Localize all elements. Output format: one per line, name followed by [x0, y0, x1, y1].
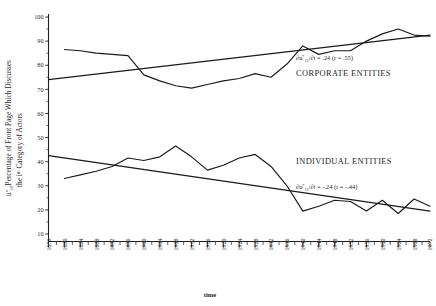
- y-axis-group: 102030405060708090100: [34, 13, 48, 242]
- x-tick-label-1912: 1912: [189, 239, 195, 251]
- corporate-annotation: ∂u*11/∂t = .24 (r = .55) CORPORATE ENTIT…: [296, 54, 391, 78]
- y-axis-title-group: u*it,Percentage of Front Page Which Disc…: [4, 60, 24, 196]
- y-tick-label-100: 100: [34, 13, 43, 20]
- x-tick-label-1960: 1960: [380, 239, 386, 251]
- x-tick-label-1928: 1928: [253, 239, 259, 251]
- y-tick-label-10: 10: [37, 230, 43, 237]
- individual-series-label: INDIVIDUAL ENTITIES: [296, 157, 392, 166]
- y-tick-label-20: 20: [37, 206, 43, 213]
- x-tick-label-1964: 1964: [396, 239, 402, 251]
- y-axis-title-rest: Category of Actors: [15, 113, 24, 171]
- y-tick-label-70: 70: [37, 86, 43, 93]
- x-tick-label-1908: 1908: [173, 239, 179, 251]
- x-tick-label-1916: 1916: [205, 239, 211, 251]
- y-tick-label-60: 60: [37, 110, 43, 117]
- time-series-chart: 102030405060708090100 187618801884188818…: [0, 0, 436, 306]
- x-tick-label-1936: 1936: [284, 239, 290, 251]
- y-tick-label-80: 80: [37, 61, 43, 68]
- y-axis-title-main: Percentage of Front Page Which Discusses: [4, 60, 13, 185]
- figure-container: 102030405060708090100 187618801884188818…: [0, 0, 436, 306]
- x-tick-label-1944: 1944: [316, 239, 322, 251]
- y-axis-title-line2: the ith Category of Actors: [15, 113, 24, 187]
- x-tick-label-1880: 1880: [62, 239, 68, 251]
- corporate-equation: ∂u*11/∂t = .24 (r = .55): [296, 54, 353, 63]
- x-tick-label-1948: 1948: [332, 239, 338, 251]
- y-axis-title-the-i: the i: [15, 174, 24, 187]
- corporate-data-line: [64, 29, 430, 88]
- y-tick-label-30: 30: [37, 182, 43, 189]
- x-axis-group: 1876188018841888189218961900190419081912…: [46, 239, 434, 251]
- x-tick-label-1932: 1932: [268, 239, 274, 251]
- x-tick-label-1940: 1940: [300, 239, 306, 251]
- y-tick-label-50: 50: [37, 134, 43, 141]
- x-tick-label-1920: 1920: [221, 239, 227, 251]
- y-axis-title-line1: u*it,Percentage of Front Page Which Disc…: [4, 60, 14, 196]
- series-corporate-group: [49, 29, 431, 88]
- corporate-series-label: CORPORATE ENTITIES: [296, 69, 391, 78]
- corporate-eq-body: /∂t = .24 (r = .55): [309, 54, 353, 62]
- y-tick-label-40: 40: [37, 158, 43, 165]
- x-tick-label-1888: 1888: [94, 239, 100, 251]
- x-tick-label-1968: 1968: [412, 239, 418, 251]
- individual-annotation: INDIVIDUAL ENTITIES ∂u*11/∂t = -.24 (r =…: [296, 157, 392, 192]
- individual-eq-body: /∂t = -.24 (r = -.44): [309, 183, 358, 191]
- x-tick-label-1956: 1956: [364, 239, 370, 251]
- x-tick-label-1924: 1924: [237, 239, 243, 251]
- x-tick-label-1892: 1892: [109, 239, 115, 251]
- x-tick-label-1904: 1904: [157, 239, 163, 251]
- x-tick-label-1896: 1896: [125, 239, 131, 251]
- x-axis-title: time: [204, 291, 217, 298]
- individual-equation: ∂u*11/∂t = -.24 (r = -.44): [296, 183, 357, 192]
- x-tick-label-1952: 1952: [348, 239, 354, 251]
- x-tick-label-1884: 1884: [78, 239, 84, 251]
- x-tick-label-1876: 1876: [46, 239, 52, 251]
- x-tick-label-1900: 1900: [141, 239, 147, 251]
- x-tick-label-1972: 1972: [427, 239, 433, 251]
- y-axis-tick-labels: 102030405060708090100: [34, 13, 43, 237]
- y-tick-label-90: 90: [37, 37, 43, 44]
